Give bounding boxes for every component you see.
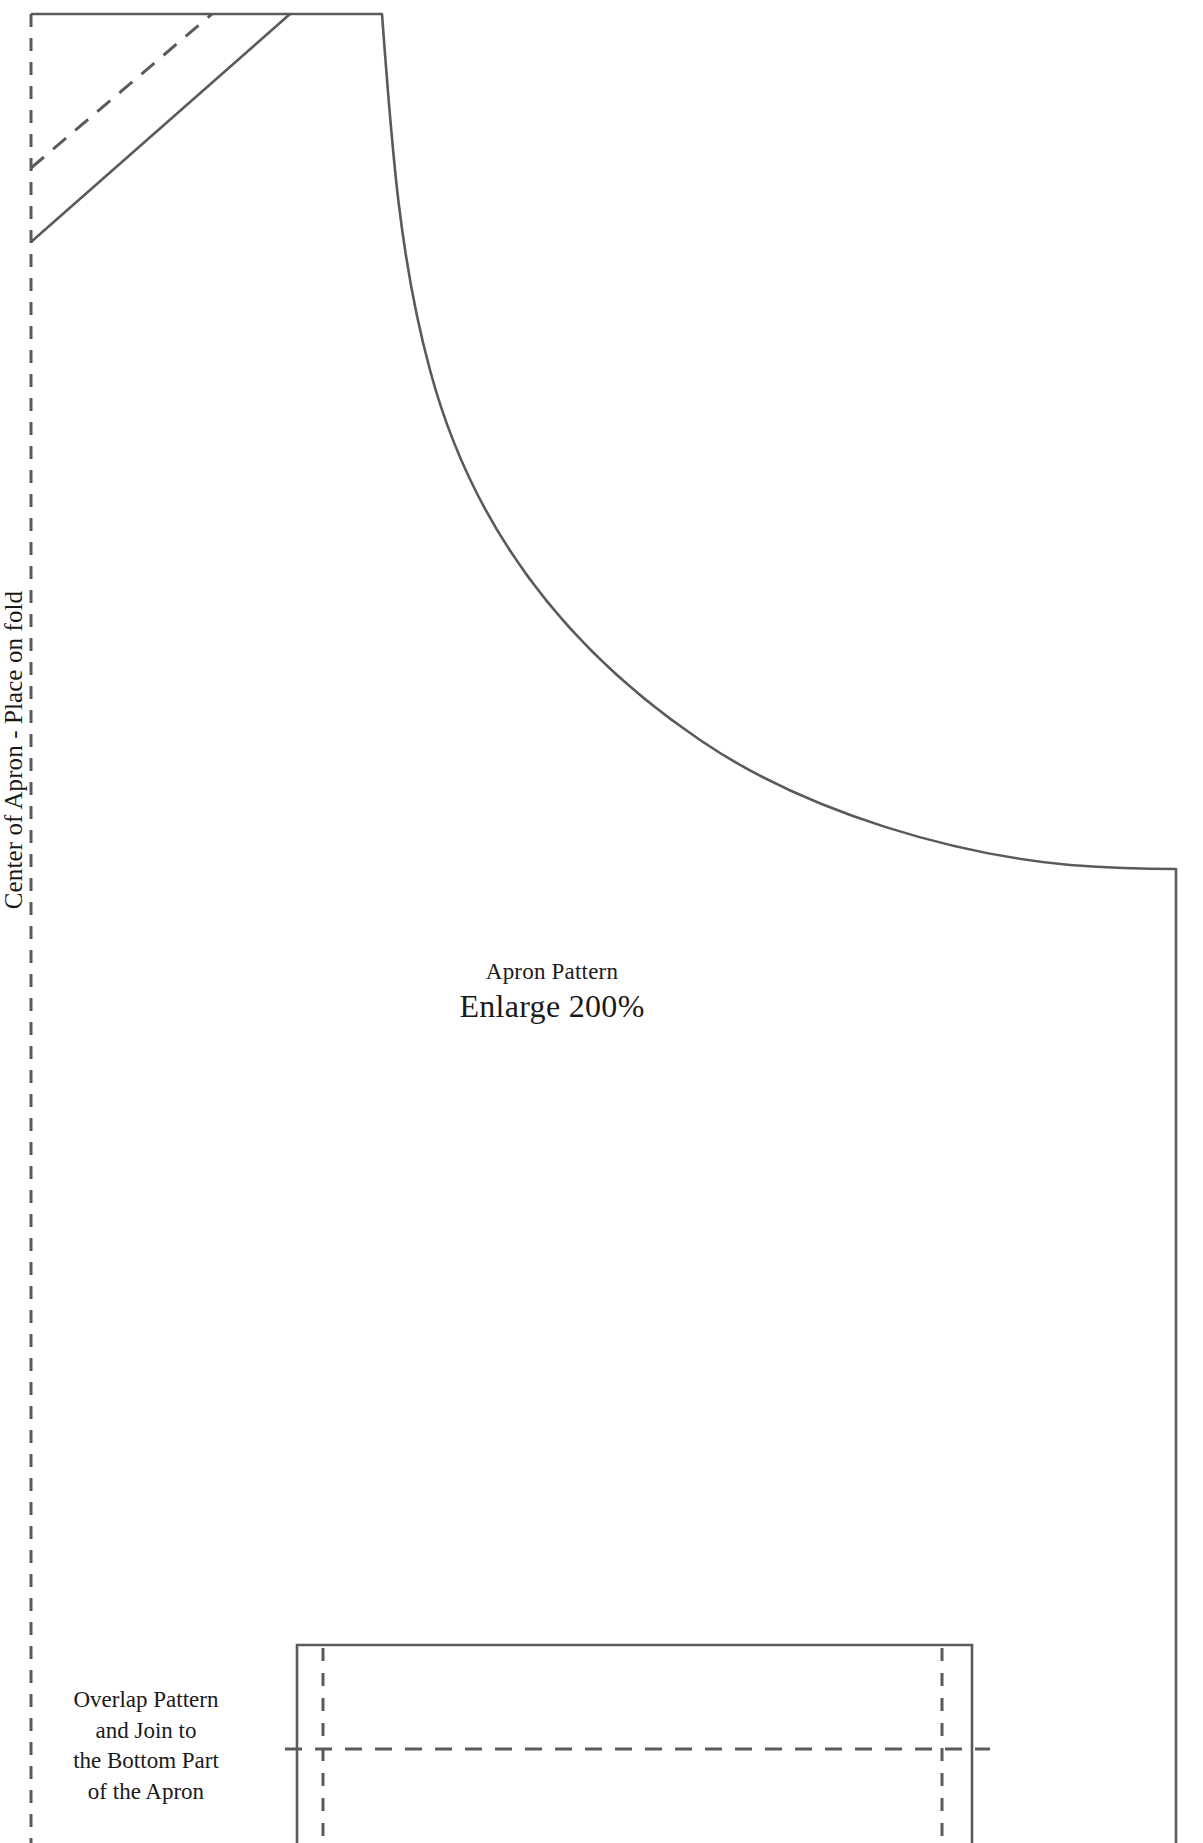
- overlap-join-box-border: [297, 1645, 972, 1843]
- strap-cut-line: [31, 14, 290, 242]
- pattern-drawing-canvas: [0, 0, 1203, 1843]
- overlap-note-line-3: the Bottom Part: [30, 1746, 262, 1777]
- overlap-note-line-1: Overlap Pattern: [30, 1685, 262, 1716]
- overlap-instruction-note: Overlap Pattern and Join to the Bottom P…: [30, 1685, 262, 1807]
- overlap-note-line-2: and Join to: [30, 1716, 262, 1747]
- overlap-note-line-4: of the Apron: [30, 1777, 262, 1808]
- strap-fold-guide: [31, 14, 212, 168]
- apron-pattern-sheet: Center of Apron - Place on fold Apron Pa…: [0, 0, 1203, 1843]
- pattern-caption: Apron Pattern Enlarge 200%: [342, 958, 762, 1026]
- pattern-caption-enlarge: Enlarge 200%: [342, 988, 762, 1026]
- center-fold-label: Center of Apron - Place on fold: [0, 580, 28, 920]
- pattern-caption-title: Apron Pattern: [342, 958, 762, 985]
- armhole-curve: [382, 14, 1176, 869]
